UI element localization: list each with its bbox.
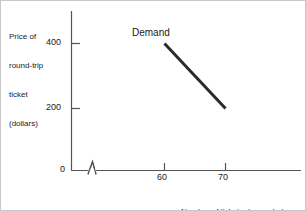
y-axis-label: Price of round-trip ticket (dollars) [9, 13, 43, 147]
y-axis-label-line-3: ticket [9, 90, 43, 100]
demand-curve-figure: Price of round-trip ticket (dollars) 400… [0, 0, 306, 211]
y-axis-label-line-1: Price of [9, 32, 43, 42]
y-axis-label-line-2: round-trip [9, 61, 43, 71]
y-tick-label-200: 200 [46, 103, 61, 113]
x-axis-label-line-1: Number of tickets demanded [181, 207, 283, 211]
y-tick-label-400: 400 [46, 38, 61, 48]
demand-curve-label: Demand [132, 28, 170, 38]
y-axis-label-line-4: (dollars) [9, 119, 43, 129]
x-tick-label-60: 60 [157, 173, 167, 183]
x-tick-label-70: 70 [218, 173, 228, 183]
x-axis-label: Number of tickets demanded per year (tho… [181, 188, 283, 211]
demand-curve-line [165, 44, 226, 109]
origin-label: 0 [60, 165, 65, 175]
